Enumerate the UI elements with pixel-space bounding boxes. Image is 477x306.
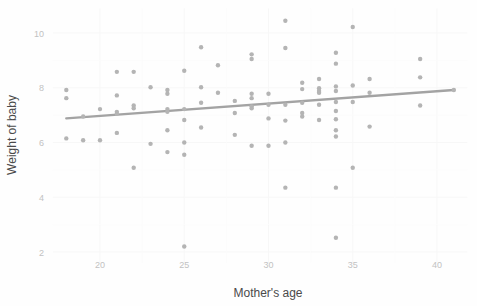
data-point	[165, 88, 169, 92]
data-point	[148, 85, 152, 89]
y-tick-label: 8	[39, 83, 44, 93]
data-point	[64, 96, 68, 100]
data-point	[334, 109, 338, 113]
data-point	[334, 185, 338, 189]
data-point	[283, 118, 287, 122]
data-point	[182, 107, 186, 111]
x-tick-label: 30	[263, 260, 273, 270]
data-point	[334, 89, 338, 93]
data-point	[64, 88, 68, 92]
data-point	[334, 134, 338, 138]
data-point	[216, 63, 220, 67]
data-point	[199, 125, 203, 129]
data-point	[182, 140, 186, 144]
data-point	[233, 133, 237, 137]
x-tick-label: 20	[95, 260, 105, 270]
x-tick-label: 40	[432, 260, 442, 270]
data-point	[283, 140, 287, 144]
scatter-plot-figure: 2025303540 246810 Mother's age Weight of…	[0, 0, 477, 306]
data-point	[165, 128, 169, 132]
data-point	[351, 100, 355, 104]
data-point	[165, 92, 169, 96]
data-point	[182, 244, 186, 248]
data-point	[300, 114, 304, 118]
y-tick-label: 4	[39, 193, 44, 203]
plot-background	[0, 0, 477, 306]
data-point	[249, 144, 253, 148]
data-point	[115, 131, 119, 135]
data-point	[334, 236, 338, 240]
data-point	[249, 96, 253, 100]
data-point	[165, 150, 169, 154]
data-point	[452, 88, 456, 92]
data-point	[115, 112, 119, 116]
data-point	[283, 185, 287, 189]
data-point	[317, 77, 321, 81]
data-point	[98, 138, 102, 142]
data-point	[115, 93, 119, 97]
x-tick-label: 25	[179, 260, 189, 270]
data-point	[317, 103, 321, 107]
data-point	[165, 110, 169, 114]
data-point	[334, 128, 338, 132]
data-point	[64, 136, 68, 140]
data-point	[351, 165, 355, 169]
data-point	[418, 57, 422, 61]
data-point	[317, 118, 321, 122]
x-axis-title: Mother's age	[234, 286, 303, 300]
data-point	[216, 90, 220, 94]
data-point	[98, 107, 102, 111]
data-point	[283, 46, 287, 50]
x-tick-label: 35	[348, 260, 358, 270]
data-point	[233, 99, 237, 103]
data-point	[182, 118, 186, 122]
data-point	[317, 90, 321, 94]
data-point	[233, 111, 237, 115]
data-point	[367, 90, 371, 94]
y-tick-label: 6	[39, 138, 44, 148]
data-point	[266, 103, 270, 107]
data-point	[334, 61, 338, 65]
data-point	[249, 52, 253, 56]
data-point	[199, 45, 203, 49]
plot-canvas: 2025303540 246810 Mother's age Weight of…	[0, 0, 477, 306]
data-point	[300, 101, 304, 105]
data-point	[367, 124, 371, 128]
data-point	[182, 153, 186, 157]
data-point	[148, 142, 152, 146]
data-point	[81, 138, 85, 142]
data-point	[418, 75, 422, 79]
data-point	[249, 106, 253, 110]
data-point	[351, 25, 355, 29]
data-point	[334, 84, 338, 88]
data-point	[418, 103, 422, 107]
data-point	[249, 57, 253, 61]
data-point	[249, 92, 253, 96]
data-point	[266, 144, 270, 148]
data-point	[199, 85, 203, 89]
data-point	[334, 51, 338, 55]
data-point	[115, 70, 119, 74]
data-point	[283, 18, 287, 22]
data-point	[266, 92, 270, 96]
data-point	[132, 165, 136, 169]
data-point	[199, 101, 203, 105]
data-point	[182, 69, 186, 73]
data-point	[81, 114, 85, 118]
y-tick-label: 2	[39, 248, 44, 258]
data-point	[300, 81, 304, 85]
data-point	[132, 106, 136, 110]
data-point	[300, 87, 304, 91]
data-point	[283, 103, 287, 107]
data-point	[367, 77, 371, 81]
data-point	[132, 70, 136, 74]
data-point	[334, 100, 338, 104]
y-tick-label: 10	[34, 29, 44, 39]
data-point	[266, 116, 270, 120]
data-point	[351, 83, 355, 87]
y-axis-title: Weight of baby	[5, 95, 19, 175]
data-point	[334, 117, 338, 121]
